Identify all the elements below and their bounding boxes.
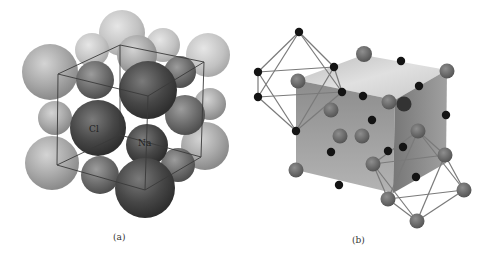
panel-b-ball-and-stick-model — [254, 28, 472, 229]
nacl-crystal-figure: Cl Na — [0, 0, 497, 265]
label-cl: Cl — [89, 124, 99, 134]
caption-b: (b) — [352, 235, 365, 245]
dark-large-ion — [397, 97, 412, 112]
label-na: Na — [138, 138, 152, 148]
figure-canvas: Cl Na — [0, 0, 497, 265]
panel-a-space-filling-model: Cl Na — [22, 10, 230, 218]
caption-a: (a) — [113, 232, 125, 242]
